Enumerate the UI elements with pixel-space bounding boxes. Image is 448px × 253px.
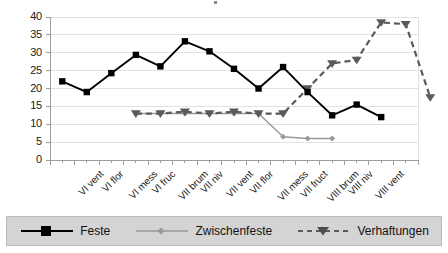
- data-point-marker: [329, 136, 335, 142]
- line-chart: 4035302520151050 VI ventVI florVI messVI…: [0, 0, 448, 253]
- data-point-marker: [353, 101, 359, 107]
- data-point-marker: [255, 85, 261, 91]
- legend-label-zwischenfeste: Zwischenfeste: [195, 224, 272, 238]
- chart-legend: Feste Zwischenfeste Verhaftungen: [6, 216, 442, 246]
- legend-label-feste: Feste: [80, 224, 110, 238]
- data-point-marker: [280, 64, 286, 70]
- data-point-marker: [84, 89, 90, 95]
- data-point-marker: [352, 57, 362, 65]
- data-point-marker: [305, 136, 311, 142]
- legend-item-feste[interactable]: Feste: [19, 224, 110, 238]
- data-point-marker: [329, 112, 335, 118]
- data-point-marker: [182, 38, 188, 44]
- legend-item-verhaftungen[interactable]: Verhaftungen: [296, 224, 428, 238]
- legend-key-verhaftungen-icon: [296, 224, 352, 238]
- data-point-marker: [108, 70, 114, 76]
- legend-key-zwischenfeste-icon: [134, 224, 190, 238]
- data-point-marker: [401, 21, 411, 29]
- legend-key-feste-icon: [19, 224, 75, 238]
- data-point-marker: [133, 52, 139, 58]
- data-point-marker: [206, 48, 212, 54]
- legend-label-verhaftungen: Verhaftungen: [357, 224, 428, 238]
- legend-item-zwischenfeste[interactable]: Zwischenfeste: [134, 224, 272, 238]
- data-point-marker: [304, 89, 310, 95]
- data-point-marker: [425, 94, 435, 102]
- data-point-marker: [157, 63, 163, 69]
- data-point-marker: [231, 66, 237, 72]
- series-group: [59, 38, 384, 120]
- series-line: [136, 114, 332, 139]
- data-point-marker: [59, 78, 65, 84]
- data-point-marker: [378, 114, 384, 120]
